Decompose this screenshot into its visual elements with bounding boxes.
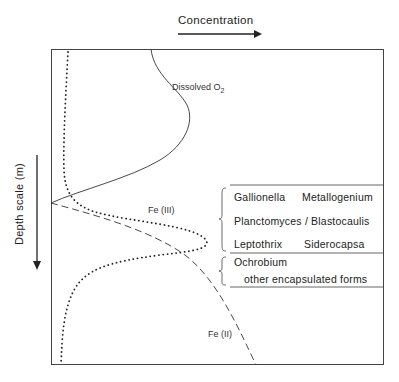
fe2-curve — [51, 203, 256, 365]
org-other-encapsulated: other encapsulated forms — [244, 273, 367, 285]
org-metallogenium: Metallogenium — [302, 191, 373, 203]
org-ochrobium: Ochrobium — [234, 256, 287, 268]
org-planctomyces-blastocaulis: Planctomyces / Blastocaulis — [234, 215, 370, 227]
fe3-curve — [61, 52, 207, 365]
plot-frame — [52, 50, 384, 365]
x-axis-label: Concentration — [178, 14, 254, 26]
o2-label-text: Dissolved O — [172, 82, 221, 92]
concentration-arrow — [178, 30, 262, 38]
fe2-label: Fe (II) — [208, 329, 232, 339]
y-axis-label: Depth scale (m) — [13, 154, 25, 254]
org-siderocapsa: Siderocapsa — [304, 238, 365, 250]
org-gallionella: Gallionella — [234, 191, 285, 203]
fe3-label: Fe (III) — [148, 205, 175, 215]
org-leptothrix: Leptothrix — [234, 238, 282, 250]
brace-group-2 — [219, 257, 226, 285]
o2-curve — [51, 49, 190, 203]
depth-arrow — [33, 155, 41, 270]
o2-label: Dissolved O2 — [172, 82, 224, 94]
o2-label-subscript: 2 — [221, 87, 225, 94]
brace-group-1 — [219, 188, 226, 251]
